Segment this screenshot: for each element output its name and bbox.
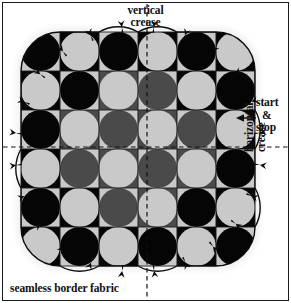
horizontal-crease-label-line2: crease xyxy=(255,62,267,152)
horizontal-crease-label: horizontal crease xyxy=(243,62,268,152)
horizontal-crease-label-line1: horizontal xyxy=(243,62,255,152)
vertical-crease-label-line1: vertical xyxy=(0,4,291,16)
diagram-canvas: vertical crease start & stop horizontal … xyxy=(0,0,291,303)
pieced-fabric-block xyxy=(21,32,255,266)
vertical-crease-label: vertical crease xyxy=(0,4,291,28)
vertical-crease-label-line2: crease xyxy=(0,16,291,28)
seamless-border-fabric-label: seamless border fabric xyxy=(10,283,119,295)
